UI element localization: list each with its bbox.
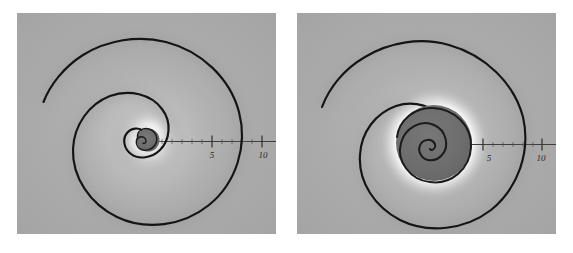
right-panel-canvas: 5 10 [297, 13, 556, 234]
panel-grain [17, 13, 276, 234]
panel-right: 5 10 [297, 13, 556, 234]
panel-grain [297, 13, 556, 234]
figure-root: 5 10 [0, 0, 573, 253]
panel-left: 5 10 [17, 13, 276, 234]
left-panel-canvas: 5 10 [17, 13, 276, 234]
